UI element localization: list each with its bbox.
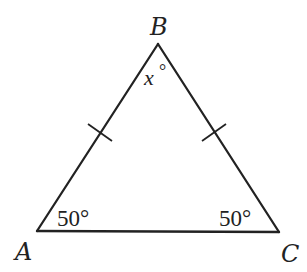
side-bc — [158, 44, 279, 232]
vertex-label-c: C — [281, 240, 299, 268]
angle-a-degree-symbol: ° — [80, 206, 89, 231]
angle-c-degree-symbol: ° — [242, 206, 251, 231]
angle-b-variable: x — [143, 65, 154, 90]
vertex-label-a: A — [13, 238, 32, 266]
side-ac — [37, 231, 279, 232]
triangle-canvas: B A C x ° 50° 50° — [0, 0, 307, 272]
side-ab — [37, 44, 158, 231]
triangle-diagram: B A C x ° 50° 50° — [0, 0, 307, 272]
tick-mark-ab — [88, 124, 112, 141]
angle-b-degree-symbol: ° — [159, 61, 166, 81]
tick-mark-bc — [202, 124, 226, 141]
angle-a-number: 50 — [57, 206, 80, 231]
angle-a-value: 50° — [57, 206, 89, 231]
angle-c-value: 50° — [219, 206, 251, 231]
angle-c-number: 50 — [219, 206, 242, 231]
vertex-label-b: B — [149, 13, 168, 41]
